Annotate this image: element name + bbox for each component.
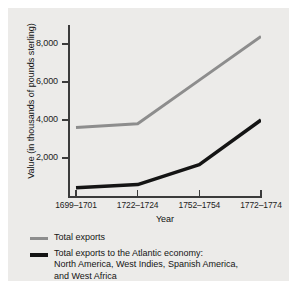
x-tick-label-1: 1722–1724: [108, 200, 168, 210]
legend-item-total-exports: Total exports: [30, 232, 282, 244]
y-tick-label-8000: 8,000: [8, 38, 58, 48]
plot-lines: [68, 25, 261, 196]
series-line-atlantic-economy: [76, 120, 261, 188]
legend-swatch-atlantic-economy-icon: [30, 253, 48, 257]
y-tick-label-2000: 2,000: [8, 152, 58, 162]
legend-label-atlantic-line3: and West Africa: [54, 271, 238, 283]
y-tick-label-6000: 6,000: [8, 76, 58, 86]
y-tick-label-4000: 4,000: [8, 114, 58, 124]
legend-label-atlantic-line2: North America, West Indies, Spanish Amer…: [54, 259, 238, 271]
x-axis-spine: [68, 196, 262, 198]
chart-legend: Total exports Total exports to the Atlan…: [30, 232, 282, 286]
legend-label-atlantic-line1: Total exports to the Atlantic economy:: [54, 248, 238, 260]
x-axis-title: Year: [68, 214, 262, 224]
series-line-total-exports: [76, 36, 261, 127]
x-tick-label-2: 1752–1754: [169, 200, 229, 210]
legend-label-total-exports-line1: Total exports: [54, 232, 105, 244]
x-tick-label-0: 1699–1701: [46, 200, 106, 210]
chart-figure: Value (in thousands of pounds sterling) …: [8, 8, 289, 281]
legend-swatch-total-exports-icon: [30, 237, 48, 240]
legend-label-atlantic-economy: Total exports to the Atlantic economy: N…: [54, 248, 238, 283]
x-tick-label-3: 1772–1774: [231, 200, 291, 210]
legend-label-total-exports: Total exports: [54, 232, 105, 244]
legend-item-atlantic-economy: Total exports to the Atlantic economy: N…: [30, 248, 282, 283]
